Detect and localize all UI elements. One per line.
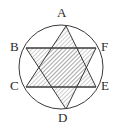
vertex-label-c: C [10, 79, 19, 92]
vertex-label-f: F [101, 40, 108, 53]
hatched-hexagram-fill [26, 26, 96, 109]
vertex-label-e: E [101, 79, 109, 92]
vertex-label-d: D [58, 111, 67, 124]
vertex-label-a: A [57, 6, 66, 19]
vertex-label-b: B [10, 40, 19, 53]
geometry-figure: A B F C E D [0, 0, 118, 132]
